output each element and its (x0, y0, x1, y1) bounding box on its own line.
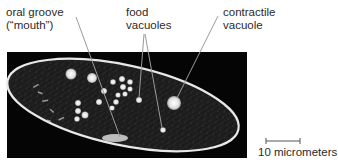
scale-bar-label: 10 micrometers (258, 146, 337, 158)
contractile-vacuole (167, 96, 181, 110)
micrograph-illustration (0, 0, 338, 166)
leader-contractile-vacuole (177, 16, 218, 98)
paramecium-cell (0, 41, 247, 166)
oral-groove (102, 134, 128, 142)
scale-bar (266, 138, 300, 144)
